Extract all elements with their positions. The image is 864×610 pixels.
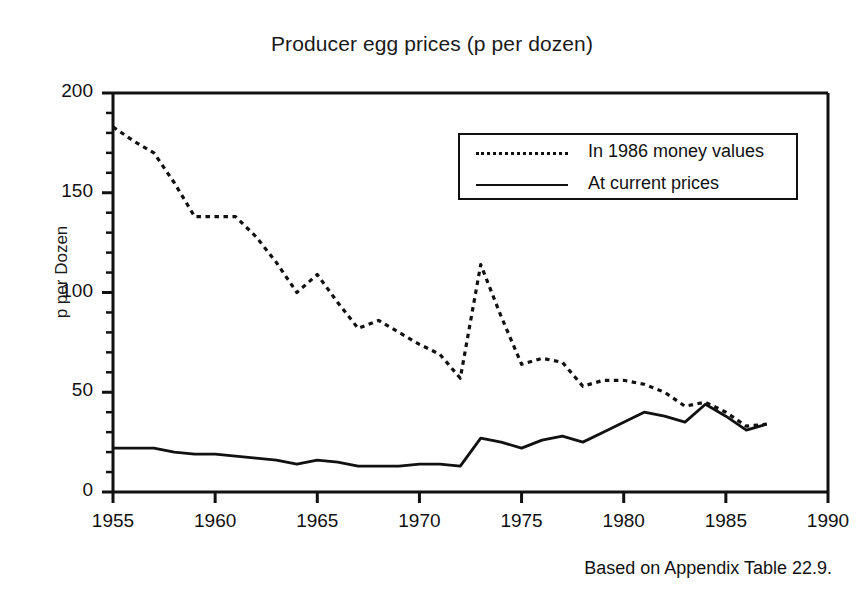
y-tick-label: 100	[1, 280, 93, 302]
legend-item-1: At current prices	[460, 168, 800, 201]
x-tick-label: 1975	[472, 510, 572, 532]
x-tick-label: 1990	[778, 510, 864, 532]
x-tick-label: 1960	[165, 510, 265, 532]
figure-caption: Based on Appendix Table 22.9.	[0, 558, 832, 579]
chart-figure: Producer egg prices (p per dozen) p per …	[0, 0, 864, 610]
y-tick-label: 50	[1, 379, 93, 401]
chart-legend: In 1986 money values At current prices	[458, 133, 798, 200]
x-tick-label: 1980	[574, 510, 674, 532]
legend-swatch-solid-icon	[476, 184, 568, 186]
y-tick-label: 0	[1, 479, 93, 501]
legend-swatch-dotted-icon	[476, 152, 568, 155]
x-tick-label: 1955	[63, 510, 163, 532]
legend-label-1: At current prices	[588, 173, 719, 194]
y-tick-label: 200	[1, 80, 93, 102]
x-tick-label: 1965	[267, 510, 367, 532]
x-tick-label: 1985	[676, 510, 776, 532]
legend-item-0: In 1986 money values	[460, 136, 800, 169]
series-line-1	[113, 404, 767, 466]
x-tick-label: 1970	[369, 510, 469, 532]
legend-label-0: In 1986 money values	[588, 141, 764, 162]
y-axis-title: p per Dozen	[52, 192, 72, 352]
y-tick-label: 150	[1, 180, 93, 202]
